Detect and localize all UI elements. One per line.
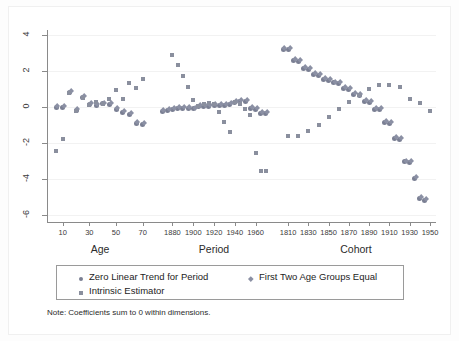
x-tick	[193, 222, 194, 226]
legend-marker-diamond	[248, 276, 253, 281]
y-tick	[42, 179, 47, 180]
data-point	[264, 169, 268, 173]
data-point	[377, 83, 381, 87]
data-point	[286, 134, 290, 138]
y-tick	[42, 107, 47, 108]
data-point	[191, 98, 195, 102]
gridline	[48, 35, 436, 36]
data-point	[87, 103, 91, 107]
data-point	[317, 123, 321, 127]
legend-marker-circle	[79, 277, 83, 281]
data-point	[107, 97, 111, 101]
data-point	[170, 53, 174, 57]
y-tick-label: 0	[21, 95, 31, 117]
x-tick	[235, 222, 236, 226]
data-point	[428, 109, 432, 113]
data-point	[347, 85, 353, 91]
legend-marker-square	[79, 291, 83, 295]
legend-label: Intrinsic Estimator	[89, 285, 165, 296]
chart-legend: Zero Linear Trend for PeriodFirst Two Ag…	[56, 265, 404, 300]
data-point	[418, 101, 422, 105]
gridline	[48, 71, 436, 72]
x-tick	[89, 222, 90, 226]
y-tick	[42, 71, 47, 72]
data-point	[207, 101, 211, 105]
data-point	[259, 169, 263, 173]
x-tick	[214, 222, 215, 226]
data-point	[367, 87, 371, 91]
data-point	[347, 100, 351, 104]
data-point	[408, 97, 412, 101]
data-point	[54, 149, 58, 153]
data-point	[186, 85, 190, 89]
data-point	[141, 120, 147, 126]
x-tick-label: 1960	[239, 228, 273, 237]
figure-note: Note: Coefficients sum to 0 within dimen…	[47, 308, 210, 317]
data-point	[127, 81, 131, 85]
data-point	[81, 96, 85, 100]
data-point	[121, 97, 125, 101]
data-point	[67, 91, 71, 95]
x-tick-label: 1950	[413, 228, 447, 237]
y-tick-label: -6	[21, 203, 31, 225]
data-point	[212, 102, 216, 106]
legend-label: First Two Age Groups Equal	[259, 271, 377, 282]
data-point	[243, 107, 247, 111]
data-point	[398, 85, 402, 89]
data-point	[228, 130, 232, 134]
data-point	[141, 77, 145, 81]
y-tick-label: 2	[21, 59, 31, 81]
data-point	[134, 86, 138, 90]
y-tick	[42, 143, 47, 144]
data-point	[196, 104, 200, 108]
y-tick-label: -2	[21, 131, 31, 153]
data-point	[202, 102, 206, 106]
x-tick	[172, 222, 173, 226]
data-point	[181, 74, 185, 78]
dimension-label-cohort: Cohort	[311, 243, 401, 255]
data-point	[101, 102, 105, 106]
data-point	[327, 115, 331, 119]
x-tick	[256, 222, 257, 226]
data-point	[296, 134, 300, 138]
data-point	[94, 100, 98, 104]
dimension-label-period: Period	[169, 243, 259, 255]
x-tick	[369, 222, 370, 226]
data-point	[114, 88, 118, 92]
x-tick	[116, 222, 117, 226]
data-point	[306, 129, 310, 133]
gridline	[48, 215, 436, 216]
data-point	[254, 151, 258, 155]
x-axis-line	[47, 222, 436, 223]
x-tick	[288, 222, 289, 226]
data-point	[74, 109, 78, 113]
x-tick	[329, 222, 330, 226]
y-tick-label: 4	[21, 23, 31, 45]
y-tick	[42, 35, 47, 36]
y-tick	[42, 215, 47, 216]
data-point	[238, 102, 242, 106]
data-point	[248, 113, 252, 117]
x-tick	[63, 222, 64, 226]
data-point	[61, 137, 65, 141]
chart-root: 420-2-4-6 103050701880190019201940196018…	[0, 0, 459, 341]
data-point	[357, 93, 361, 97]
data-point	[233, 100, 237, 104]
y-tick-label: -4	[21, 167, 31, 189]
data-point	[222, 120, 226, 124]
data-point	[176, 63, 180, 67]
data-point	[387, 83, 391, 87]
data-point	[337, 107, 341, 111]
x-tick	[430, 222, 431, 226]
gridline	[48, 143, 436, 144]
x-tick	[389, 222, 390, 226]
legend-label: Zero Linear Trend for Period	[89, 271, 208, 282]
x-tick	[410, 222, 411, 226]
data-point	[217, 110, 221, 114]
y-axis-line	[47, 30, 48, 222]
x-tick	[308, 222, 309, 226]
gridline	[48, 179, 436, 180]
x-tick	[143, 222, 144, 226]
data-point	[264, 109, 270, 115]
dimension-label-age: Age	[55, 243, 145, 255]
